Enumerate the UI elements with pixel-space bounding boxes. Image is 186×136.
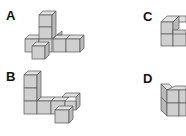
cube-structure-b [24, 71, 80, 123]
cube-structure-a [25, 11, 84, 59]
cube-figures [0, 0, 186, 136]
cube-structure-d [161, 84, 186, 116]
cube-structure-c [161, 16, 186, 46]
